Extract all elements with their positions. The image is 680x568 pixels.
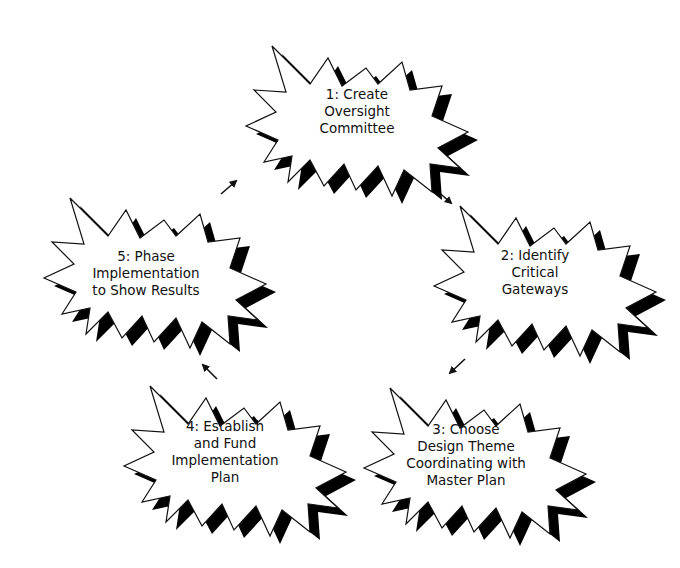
cycle-diagram: 1: Create Oversight Committee 2: Identif… <box>0 0 680 568</box>
arrow-4-to-5 <box>203 365 217 379</box>
step-4-line-2: and Fund <box>160 435 290 452</box>
step-2-label: 2: Identify Critical Gateways <box>480 247 590 298</box>
step-4-line-1: 4: Establish <box>160 418 290 435</box>
step-4-line-3: Implementation <box>160 452 290 469</box>
step-5-line-3: to Show Results <box>76 282 216 299</box>
step-5-label: 5: Phase Implementation to Show Results <box>76 248 216 299</box>
step-4-line-4: Plan <box>160 469 290 486</box>
step-3-line-4: Master Plan <box>396 472 536 489</box>
step-3-label: 3: Choose Design Theme Coordinating with… <box>396 421 536 489</box>
step-1-label: 1: Create Oversight Committee <box>302 86 412 137</box>
step-4-label: 4: Establish and Fund Implementation Pla… <box>160 418 290 486</box>
arrow-2-to-3 <box>450 359 465 373</box>
step-2-line-2: Critical <box>480 264 590 281</box>
step-5-line-1: 5: Phase <box>76 248 216 265</box>
step-5-line-2: Implementation <box>76 265 216 282</box>
step-3-line-1: 3: Choose <box>396 421 536 438</box>
step-3-line-2: Design Theme <box>396 438 536 455</box>
step-3-line-3: Coordinating with <box>396 455 536 472</box>
step-2-line-3: Gateways <box>480 281 590 298</box>
step-1-line-2: Oversight <box>302 103 412 120</box>
step-2-line-1: 2: Identify <box>480 247 590 264</box>
step-1-line-1: 1: Create <box>302 86 412 103</box>
step-1-line-3: Committee <box>302 120 412 137</box>
